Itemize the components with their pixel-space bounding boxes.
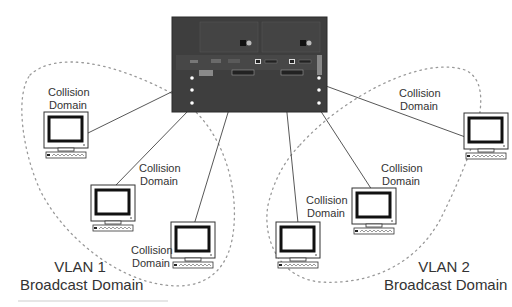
label-line: Collision: [399, 87, 439, 100]
computer-pc5[interactable]: [352, 188, 396, 234]
collision-domain-label: Collision Domain: [399, 87, 439, 113]
collision-domain-label: Collision Domain: [306, 194, 346, 220]
divider: [18, 300, 168, 302]
label-line: Collision: [48, 86, 88, 99]
vlan1-label: VLAN 1 Broadcast Domain: [20, 258, 140, 294]
label-line: Domain: [399, 100, 439, 113]
label-line: Collision: [131, 244, 171, 257]
computer-pc6[interactable]: [464, 113, 508, 159]
collision-domain-label: Collision Domain: [48, 86, 88, 112]
computer-pc4[interactable]: [276, 222, 320, 268]
vlan-subtitle: Broadcast Domain: [384, 276, 504, 294]
collision-domain-label: Collision Domain: [381, 162, 421, 188]
computer-pc2[interactable]: [91, 185, 135, 231]
vlan-title: VLAN 1: [20, 258, 140, 276]
computer-pc3[interactable]: [171, 222, 215, 268]
label-line: Domain: [139, 175, 179, 188]
vlan2-label: VLAN 2 Broadcast Domain: [384, 258, 504, 294]
label-line: Collision: [139, 162, 179, 175]
computer-pc1[interactable]: [44, 112, 88, 158]
label-line: Collision: [381, 162, 421, 175]
vlan-subtitle: Broadcast Domain: [20, 276, 140, 294]
vlan-title: VLAN 2: [384, 258, 504, 276]
label-line: Domain: [306, 207, 346, 220]
label-line: Collision: [306, 194, 346, 207]
label-line: Domain: [381, 175, 421, 188]
collision-domain-label: Collision Domain: [139, 162, 179, 188]
label-line: Domain: [48, 99, 88, 112]
switch[interactable]: [172, 17, 327, 112]
